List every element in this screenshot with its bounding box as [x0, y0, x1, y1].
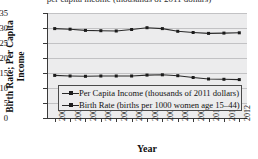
x-tick-mark [209, 118, 210, 122]
x-tick-mark [147, 118, 148, 122]
cropped-chart-title: per capita income (thousands of 2011 dol… [0, 0, 258, 7]
y-tick-label: 20 [0, 54, 8, 63]
data-point [192, 76, 195, 79]
data-point [222, 78, 225, 81]
data-point [99, 29, 102, 32]
data-point [176, 74, 179, 77]
chart-legend: Per Capita Income (thousands of 2011 dol… [58, 85, 242, 111]
y-tick-label: 10 [0, 84, 8, 93]
legend-marker-birth-rate [62, 100, 79, 111]
data-point [238, 31, 241, 34]
y-tick-mark [43, 118, 47, 119]
x-tick-mark [224, 118, 225, 122]
y-tick-label: 0 [0, 114, 8, 123]
data-point [130, 75, 133, 78]
data-point [115, 30, 118, 33]
y-tick-label: 35 [0, 9, 8, 18]
data-point [99, 75, 102, 78]
x-tick-mark [178, 118, 179, 122]
data-point [146, 74, 149, 77]
data-point [53, 27, 56, 30]
x-tick-mark [239, 118, 240, 122]
x-tick-mark [162, 118, 163, 122]
data-point [161, 73, 164, 76]
x-axis-label: Year [46, 143, 248, 154]
legend-label-birth-rate: Birth Rate (births per 1000 women age 15… [79, 100, 240, 111]
data-point [176, 30, 179, 33]
legend-item: Birth Rate (births per 1000 women age 15… [62, 99, 238, 111]
data-point [69, 28, 72, 31]
data-point [207, 32, 210, 35]
x-tick-mark [116, 118, 117, 122]
legend-item: Per Capita Income (thousands of 2011 dol… [62, 87, 238, 99]
legend-label-income: Per Capita Income (thousands of 2011 dol… [79, 88, 239, 99]
legend-marker-income [62, 88, 79, 99]
x-tick-mark [55, 118, 56, 122]
data-point [84, 75, 87, 78]
x-tick-mark [101, 118, 102, 122]
x-tick-mark [193, 118, 194, 122]
chart-figure: per capita income (thousands of 2011 dol… [0, 0, 258, 159]
y-tick-label: 30 [0, 24, 8, 33]
data-point [207, 78, 210, 81]
x-tick-mark [70, 118, 71, 122]
data-point [53, 74, 56, 77]
data-point [84, 29, 87, 32]
data-point [115, 75, 118, 78]
data-point [238, 78, 241, 81]
data-point [222, 32, 225, 35]
data-point [130, 28, 133, 31]
data-point [69, 75, 72, 78]
y-tick-label: 5 [0, 99, 8, 108]
data-point [146, 26, 149, 29]
data-point [192, 31, 195, 34]
x-tick-mark [132, 118, 133, 122]
data-point [161, 27, 164, 30]
y-tick-label: 15 [0, 69, 8, 78]
y-tick-label: 25 [0, 39, 8, 48]
x-tick-mark [85, 118, 86, 122]
